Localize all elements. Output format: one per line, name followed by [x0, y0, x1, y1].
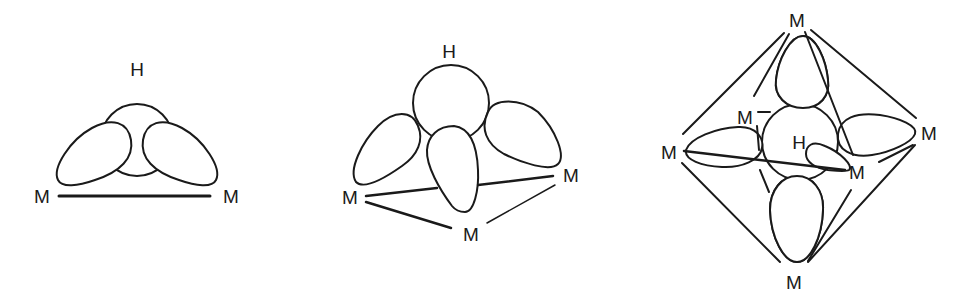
metal-label: M	[786, 272, 802, 293]
metal-label: M	[342, 187, 358, 208]
metal-label: M	[661, 142, 677, 163]
metal-orbital-lobe-left	[686, 127, 762, 167]
metal-label: M	[921, 123, 937, 144]
hydride-bonding-figure: H M M H M M M	[0, 0, 962, 297]
metal-label: M	[463, 224, 479, 245]
metal-label: M	[223, 186, 239, 207]
hydrogen-label: H	[792, 132, 806, 153]
metal-orbital-lobe-right	[485, 102, 561, 168]
metal-label: M	[789, 10, 805, 31]
metal-orbital-lobe-front	[427, 126, 478, 212]
metal-orbital-lobe-left	[354, 114, 421, 185]
metal-metal-bond	[682, 163, 780, 262]
metal-metal-bond	[366, 202, 451, 228]
hydrogen-label: H	[442, 41, 456, 62]
metal-label: M	[849, 162, 865, 183]
metal-metal-bond	[366, 188, 437, 196]
metal-label: M	[34, 186, 50, 207]
metal-metal-bond	[478, 176, 553, 185]
panel-three-center: H M M M	[342, 41, 579, 245]
panel-two-center: H M M	[34, 59, 239, 207]
metal-label: M	[737, 107, 753, 128]
metal-orbital-lobe-right	[143, 122, 218, 185]
metal-metal-bond	[487, 185, 555, 223]
metal-metal-bond	[760, 170, 769, 192]
metal-orbital-lobe-left	[57, 122, 132, 185]
panel-octahedral: M M M M M M H	[661, 10, 937, 293]
hydrogen-label: H	[130, 59, 144, 80]
metal-label: M	[563, 165, 579, 186]
